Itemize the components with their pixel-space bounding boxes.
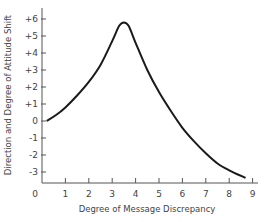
y-tick-label: +4 [25, 48, 39, 58]
y-axis-title: Direction and Degree of Attitude Shift [3, 14, 13, 175]
y-tick-label: +1 [25, 99, 38, 109]
x-tick-label: 3 [109, 189, 115, 199]
y-tick-label: +3 [25, 65, 38, 75]
y-tick-label: 0 [32, 116, 38, 126]
y-tick-label: +5 [25, 31, 38, 41]
x-tick-label: 5 [156, 189, 162, 199]
y-tick-label: -3 [29, 167, 38, 177]
y-tick-label: -1 [29, 133, 38, 143]
x-tick-label: 1 [63, 189, 69, 199]
x-axis: 0123456789 [32, 178, 258, 199]
y-tick-label: +6 [25, 14, 39, 24]
x-tick-label: 2 [86, 189, 92, 199]
x-tick-label: 9 [250, 189, 256, 199]
x-tick-label: 0 [32, 189, 38, 199]
x-tick-label: 7 [203, 189, 209, 199]
y-tick-label: +2 [25, 82, 38, 92]
line-chart: +6+5+4+3+2+10-1-2-3 0123456789 Degree of… [0, 0, 273, 222]
x-axis-title: Degree of Message Discrepancy [79, 204, 216, 214]
x-tick-label: 4 [133, 189, 139, 199]
attitude-shift-curve [47, 22, 246, 178]
y-axis: +6+5+4+3+2+10-1-2-3 [25, 8, 46, 183]
x-tick-label: 6 [180, 189, 186, 199]
y-tick-label: -2 [29, 150, 38, 160]
x-tick-label: 8 [226, 189, 232, 199]
